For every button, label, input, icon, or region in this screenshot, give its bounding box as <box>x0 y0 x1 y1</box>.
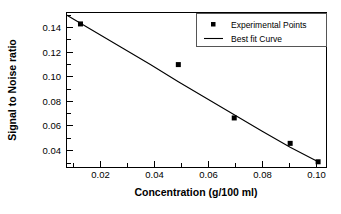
y-tick-label-2: 0.06 <box>43 120 62 131</box>
chart-figure: 0.02 0.04 0.06 0.08 0.10 0.04 0.06 0.08 … <box>0 0 341 214</box>
y-tick-label-1: 0.04 <box>43 145 62 156</box>
legend-square-marker-icon <box>211 22 216 27</box>
x-tick-label-5: 0.10 <box>307 169 326 180</box>
x-axis-minor-ticks <box>74 163 290 167</box>
data-point-marker <box>316 159 321 164</box>
x-tick-label-2: 0.04 <box>145 169 164 180</box>
y-tick-label-5: 0.12 <box>43 47 62 58</box>
data-point-marker <box>232 115 237 120</box>
y-tick-label-6: 0.14 <box>43 22 62 33</box>
chart-canvas: 0.02 0.04 0.06 0.08 0.10 0.04 0.06 0.08 … <box>0 0 341 214</box>
legend[interactable]: Experimental Points Best fit Curve <box>197 14 327 47</box>
data-point-marker <box>288 141 293 146</box>
legend-item-label-0: Experimental Points <box>231 20 307 30</box>
x-axis-major-ticks <box>101 161 317 167</box>
x-tick-label-1: 0.02 <box>91 169 110 180</box>
legend-item-label-1: Best fit Curve <box>231 34 282 44</box>
data-point-marker <box>176 62 181 67</box>
x-tick-label-4: 0.08 <box>253 169 272 180</box>
data-point-marker <box>78 21 83 26</box>
y-axis-minor-ticks <box>67 15 71 163</box>
y-tick-label-3: 0.08 <box>43 96 62 107</box>
y-axis-title: Signal to Noise ratio <box>6 39 18 141</box>
y-tick-label-4: 0.10 <box>43 71 62 82</box>
x-axis-title: Concentration (g/100 ml) <box>134 186 257 198</box>
x-tick-label-3: 0.06 <box>199 169 218 180</box>
